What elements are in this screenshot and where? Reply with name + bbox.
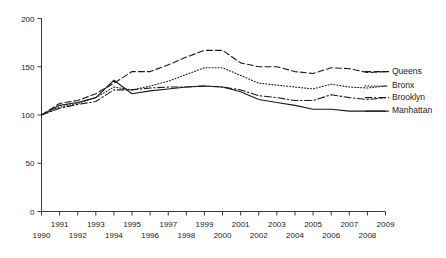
x-tick-label: 1998 [177,231,195,240]
x-tick-label: 2005 [304,220,322,229]
x-tick-label: 2007 [340,220,358,229]
y-tick-label: 50 [26,159,35,168]
x-tick-label: 2006 [322,231,340,240]
chart-legend: QueensBronxBrooklynManhattan [365,66,432,116]
legend-label-bronx: Bronx [392,80,415,90]
y-tick-label: 0 [30,208,35,217]
x-tick-label: 2008 [358,231,376,240]
x-tick-label: 1995 [123,220,141,229]
x-tick-label: 1997 [159,220,177,229]
x-tick-label: 1996 [141,231,159,240]
x-tick-label: 2009 [377,220,395,229]
series-line-manhattan [42,80,386,115]
series-line-queens [42,50,386,115]
series-line-brooklyn [42,86,386,115]
y-tick-label: 150 [21,63,35,72]
x-tick-label: 1994 [105,231,123,240]
legend-label-queens: Queens [392,66,422,76]
y-tick-label: 100 [21,111,35,120]
y-axis: 050100150200 [21,15,41,217]
x-tick-label: 1999 [196,220,214,229]
x-tick-label: 1991 [51,220,69,229]
legend-label-manhattan: Manhattan [392,105,432,115]
chart-canvas: 050100150200 199019911992199319941995199… [0,0,446,258]
x-tick-label: 1990 [33,231,51,240]
x-tick-label: 2001 [232,220,250,229]
x-tick-label: 2003 [268,220,286,229]
x-tick-label: 2002 [250,231,268,240]
legend-label-brooklyn: Brooklyn [392,92,425,102]
y-tick-label: 200 [21,15,35,24]
series-lines [42,50,386,115]
x-tick-label: 2004 [286,231,304,240]
x-tick-label: 1993 [87,220,105,229]
series-line-bronx [42,68,386,115]
line-chart: 050100150200 199019911992199319941995199… [0,0,446,258]
x-axis: 1990199119921993199419951996199719981999… [33,212,395,240]
x-tick-label: 1992 [69,231,87,240]
x-tick-label: 2000 [214,231,232,240]
